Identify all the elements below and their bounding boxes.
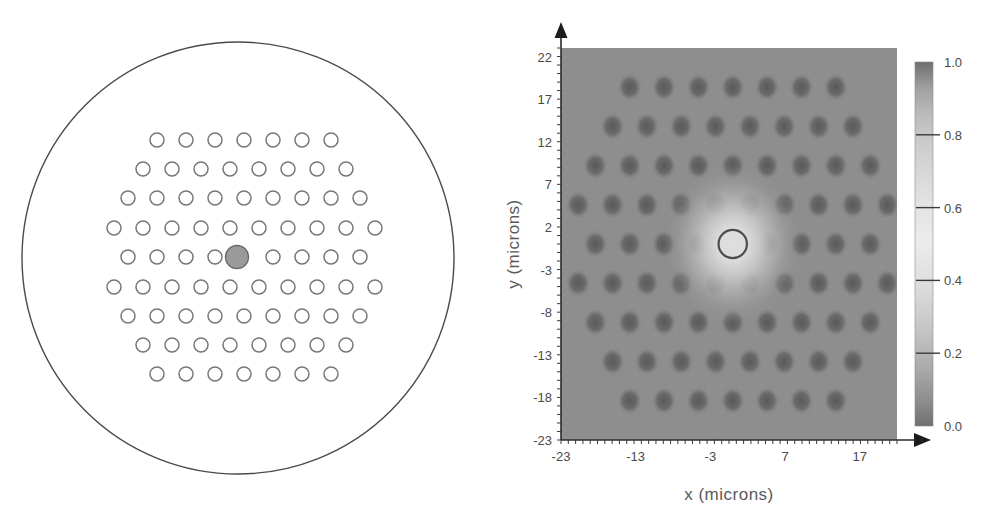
air-hole bbox=[150, 133, 164, 147]
air-hole bbox=[237, 309, 251, 323]
air-hole bbox=[339, 221, 353, 235]
air-hole bbox=[179, 309, 193, 323]
fiber-cross-section-diagram bbox=[0, 0, 497, 519]
mode-field-map-panel: -23-13-3717 22171272-3-8-13-18-23 x (mic… bbox=[497, 0, 994, 519]
air-hole bbox=[295, 309, 309, 323]
air-hole bbox=[179, 367, 193, 381]
y-axis-title: y (microns) bbox=[504, 199, 523, 289]
air-hole bbox=[368, 221, 382, 235]
air-hole bbox=[252, 338, 266, 352]
air-hole bbox=[266, 191, 280, 205]
air-hole bbox=[324, 250, 338, 264]
mode-intensity-heatmap: -23-13-3717 22171272-3-8-13-18-23 x (mic… bbox=[497, 0, 994, 519]
air-hole bbox=[339, 280, 353, 294]
air-hole bbox=[266, 367, 280, 381]
figure-root: -23-13-3717 22171272-3-8-13-18-23 x (mic… bbox=[0, 0, 994, 519]
air-hole bbox=[324, 191, 338, 205]
air-hole bbox=[208, 133, 222, 147]
air-hole bbox=[339, 338, 353, 352]
heatmap-field bbox=[561, 48, 900, 440]
fiber-cross-section-panel bbox=[0, 0, 497, 519]
air-hole bbox=[252, 162, 266, 176]
air-hole bbox=[252, 280, 266, 294]
air-hole bbox=[266, 133, 280, 147]
air-hole bbox=[179, 191, 193, 205]
air-hole bbox=[208, 367, 222, 381]
colorbar: 0.00.20.40.60.81.0 bbox=[915, 55, 962, 434]
y-axis-tick-label: 12 bbox=[538, 135, 552, 150]
colorbar-tick-label: 0.0 bbox=[944, 419, 962, 434]
x-axis-title: x (microns) bbox=[684, 485, 774, 504]
y-axis-tick-label: 17 bbox=[538, 92, 552, 107]
air-hole bbox=[136, 280, 150, 294]
air-hole bbox=[194, 280, 208, 294]
air-hole bbox=[310, 280, 324, 294]
doped-core-defect bbox=[226, 246, 249, 269]
colorbar-tick-label: 0.8 bbox=[944, 128, 962, 143]
air-hole bbox=[310, 338, 324, 352]
air-hole bbox=[150, 191, 164, 205]
air-hole bbox=[165, 338, 179, 352]
heatmap-noise-overlay bbox=[561, 48, 897, 440]
air-hole bbox=[107, 221, 121, 235]
y-axis-tick-label: 22 bbox=[538, 50, 552, 65]
air-hole bbox=[150, 250, 164, 264]
air-hole bbox=[165, 162, 179, 176]
y-axis-tick-label: -23 bbox=[533, 433, 552, 448]
colorbar-tick-label: 0.2 bbox=[944, 346, 962, 361]
air-hole bbox=[223, 338, 237, 352]
air-hole bbox=[295, 191, 309, 205]
air-hole bbox=[295, 367, 309, 381]
air-hole bbox=[368, 280, 382, 294]
colorbar-tick-label: 1.0 bbox=[944, 55, 962, 70]
air-hole bbox=[136, 221, 150, 235]
x-axis-tick-label: 7 bbox=[781, 449, 788, 464]
x-axis-tick-label: -23 bbox=[552, 449, 571, 464]
air-hole bbox=[281, 221, 295, 235]
y-axis-tick-label: -18 bbox=[533, 390, 552, 405]
y-axis-arrowhead bbox=[555, 22, 568, 38]
air-hole bbox=[237, 133, 251, 147]
air-hole bbox=[208, 250, 222, 264]
air-hole bbox=[237, 367, 251, 381]
air-hole bbox=[324, 133, 338, 147]
air-hole bbox=[136, 162, 150, 176]
air-hole bbox=[252, 221, 266, 235]
air-hole bbox=[295, 250, 309, 264]
air-hole bbox=[165, 280, 179, 294]
y-axis-tick-label: -3 bbox=[540, 263, 552, 278]
y-axis-tick-label: -13 bbox=[533, 348, 552, 363]
air-hole bbox=[266, 309, 280, 323]
colorbar-tick-labels: 0.00.20.40.60.81.0 bbox=[944, 55, 962, 434]
x-axis-tick-label: -13 bbox=[626, 449, 645, 464]
air-hole bbox=[107, 280, 121, 294]
air-hole bbox=[223, 221, 237, 235]
air-hole bbox=[121, 309, 135, 323]
air-hole bbox=[194, 162, 208, 176]
air-hole bbox=[179, 133, 193, 147]
y-axis-tick-label: 2 bbox=[545, 220, 552, 235]
y-axis-tick-label: 7 bbox=[545, 177, 552, 192]
air-hole bbox=[353, 309, 367, 323]
air-hole bbox=[281, 162, 295, 176]
air-hole bbox=[295, 133, 309, 147]
x-axis-tick-label: -3 bbox=[705, 449, 717, 464]
air-hole bbox=[310, 162, 324, 176]
colorbar-gradient bbox=[915, 62, 933, 426]
air-hole bbox=[150, 367, 164, 381]
air-hole bbox=[223, 162, 237, 176]
x-axis-tick-label: 17 bbox=[852, 449, 866, 464]
air-hole bbox=[121, 250, 135, 264]
x-axis-tick-labels: -23-13-3717 bbox=[552, 449, 867, 464]
air-hole bbox=[194, 338, 208, 352]
air-hole bbox=[136, 338, 150, 352]
air-hole bbox=[208, 191, 222, 205]
air-hole bbox=[179, 250, 193, 264]
colorbar-tick-label: 0.6 bbox=[944, 201, 962, 216]
air-hole bbox=[353, 191, 367, 205]
air-hole bbox=[208, 309, 222, 323]
air-hole bbox=[266, 250, 280, 264]
air-hole bbox=[310, 221, 324, 235]
air-hole bbox=[281, 280, 295, 294]
air-hole bbox=[194, 221, 208, 235]
